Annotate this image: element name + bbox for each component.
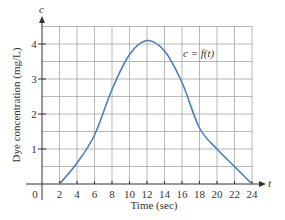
- x-tick-label: 18: [194, 188, 206, 200]
- y-tick-label: 2: [31, 108, 37, 120]
- y-axis-title: Dye concentration (mg/L): [10, 47, 23, 162]
- y-axis-arrow-icon: [39, 16, 45, 23]
- x-axis-variable: t: [268, 177, 272, 189]
- x-axis-arrow-icon: [259, 181, 266, 187]
- x-tick-label: 22: [229, 188, 240, 200]
- curve-annotation: c = f(t): [183, 47, 215, 60]
- origin-label: 0: [32, 188, 38, 200]
- x-tick-label: 20: [212, 188, 224, 200]
- y-tick-label: 3: [31, 73, 37, 85]
- tick-labels: 246810121416182022241234: [31, 38, 258, 200]
- x-tick-label: 8: [109, 188, 115, 200]
- x-tick-label: 4: [74, 188, 80, 200]
- x-axis-title: Time (sec): [131, 199, 178, 212]
- x-tick-label: 2: [57, 188, 63, 200]
- x-tick-label: 16: [177, 188, 189, 200]
- axes: [26, 16, 266, 200]
- y-tick-label: 4: [31, 38, 37, 50]
- data-curve: [60, 40, 253, 184]
- grid-lines: [42, 27, 252, 185]
- x-tick-label: 24: [247, 188, 259, 200]
- y-tick-label: 1: [31, 143, 37, 155]
- y-axis-variable: c: [39, 3, 44, 15]
- chart-canvas: 246810121416182022241234 t c c = f(t) Ti…: [0, 0, 285, 220]
- x-tick-label: 6: [92, 188, 98, 200]
